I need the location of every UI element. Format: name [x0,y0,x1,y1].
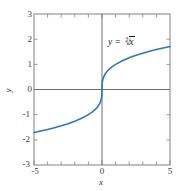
y-tick-label-minus-1: -1 [16,110,30,119]
x-tick-label-0: 0 [95,167,109,176]
x-tick-label-minus-5: -5 [28,167,42,176]
y-tick-label-minus-2: -2 [16,135,30,144]
x-tick-label-5: 5 [163,167,177,176]
curve-equation-label: y = 3√x [108,38,135,48]
x-axis-title: x [99,178,103,187]
radicand: x [129,36,134,47]
y-tick-label-1: 1 [18,60,32,69]
chart-figure: 3 2 1 0 -1 -2 -3 -5 0 5 x y y = 3√x [0,0,179,191]
y-tick-label-0: 0 [18,85,32,94]
equation-prefix: y = [108,37,123,47]
y-tick-label-3: 3 [18,10,32,19]
y-tick-label-2: 2 [18,35,32,44]
radical-index: 3 [125,36,128,42]
y-axis-title: y [4,89,13,93]
